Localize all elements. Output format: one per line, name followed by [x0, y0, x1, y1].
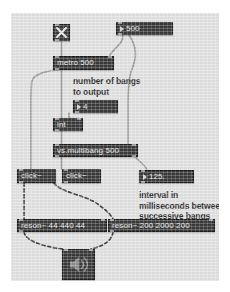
click-left-object-text: click~ [21, 172, 42, 180]
signal-cable-reson-right-to-dac [91, 232, 113, 249]
reson-left-object[interactable]: reson~ 44 440 44 [17, 219, 107, 232]
toggle-outlet [55, 39, 59, 41]
bangs-number-box[interactable]: 4 [73, 100, 118, 113]
bangs-comment: number of bangs to output [73, 76, 178, 97]
multibang-outlet-right [132, 155, 136, 157]
speaker-icon [68, 255, 89, 274]
metro-outlet [55, 68, 59, 70]
metro-object-text: metro 500 [57, 59, 94, 67]
reson-right-outlet [110, 230, 114, 232]
click-right-object-text: click~ [66, 172, 87, 180]
reson-right-inlet-right [209, 219, 213, 221]
multibang-outlet-left [55, 155, 59, 157]
ezdac-inlet-right [89, 249, 93, 251]
click-right-object[interactable]: click~ [62, 169, 101, 183]
metro-object[interactable]: metro 500 [53, 56, 114, 70]
int-object[interactable]: int [53, 118, 83, 131]
interval-number-outlet [118, 33, 122, 35]
bangs-number-outlet [75, 111, 79, 113]
bangs-number-value: 4 [83, 102, 87, 111]
interval-number-box[interactable]: 500 [116, 22, 173, 35]
click-right-outlet [64, 181, 68, 183]
signal-cable-click-right-to-reson-right [54, 183, 113, 219]
int-outlet [55, 129, 59, 131]
click-right-inlet [64, 169, 68, 171]
cable-numbox-to-metro [109, 35, 123, 57]
toggle-object[interactable] [53, 24, 70, 41]
ezdac-inlet-left [64, 249, 68, 251]
max-patch-canvas[interactable]: 500 metro 500 number of bangs to output … [11, 13, 219, 281]
float-number-outlet [141, 181, 145, 183]
signal-cable-reson-left-to-dac [24, 232, 63, 249]
float-number-inlet [141, 170, 145, 172]
reson-left-inlet-left [19, 219, 23, 221]
number-box-triangle-icon [120, 26, 124, 32]
ezdac-object[interactable] [62, 249, 95, 280]
click-left-inlet [19, 169, 23, 171]
multibang-object[interactable]: vs.multibang 500 [53, 144, 138, 157]
float-number-value: 125. [149, 172, 165, 181]
bangs-number-inlet [75, 100, 79, 102]
multibang-object-text: vs.multibang 500 [57, 147, 119, 155]
multibang-inlet-right [132, 144, 136, 146]
float-number-box[interactable]: 125. [139, 170, 194, 183]
click-left-outlet [19, 181, 23, 183]
cable-multibang-to-float [135, 157, 147, 170]
x-mark-icon [54, 25, 69, 40]
int-inlet-right [77, 118, 81, 120]
multibang-inlet-left [55, 144, 59, 146]
toggle-inlet [55, 24, 59, 26]
interval-comment: interval in milliseconds between success… [139, 190, 219, 222]
int-object-text: int [57, 121, 66, 129]
reson-right-object-text: reson~ 200 2000 200 [112, 222, 190, 230]
bangs-number-triangle-icon [77, 104, 81, 110]
click-left-object[interactable]: click~ [17, 169, 56, 183]
reson-right-object[interactable]: reson~ 200 2000 200 [108, 219, 215, 232]
reson-right-inlet-left [110, 219, 114, 221]
interval-number-value: 500 [126, 24, 139, 33]
reson-left-object-text: reson~ 44 440 44 [21, 222, 85, 230]
interval-number-inlet [118, 22, 122, 24]
reson-left-inlet-right [101, 219, 105, 221]
float-number-triangle-icon [143, 174, 147, 180]
int-inlet-left [55, 118, 59, 120]
reson-left-outlet [19, 230, 23, 232]
metro-inlet-left [55, 56, 59, 58]
metro-inlet-right [108, 56, 112, 58]
